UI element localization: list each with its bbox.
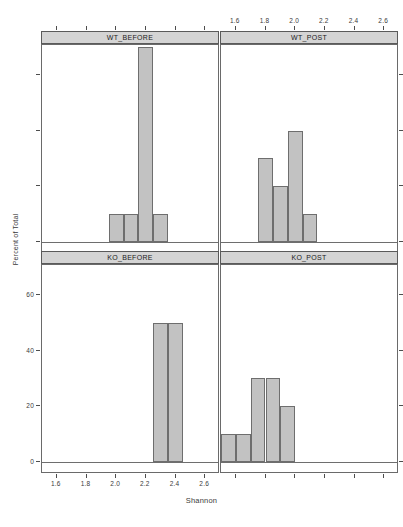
x-tick-top bbox=[204, 26, 205, 30]
y-tick-label-left: 40 bbox=[20, 347, 34, 354]
plot-area bbox=[42, 265, 218, 472]
axis-baseline bbox=[221, 462, 397, 463]
x-tick-label-bottom: 1.6 bbox=[44, 480, 68, 487]
y-tick-left bbox=[36, 350, 40, 351]
panel-ko-before bbox=[41, 264, 219, 473]
x-tick-bottom bbox=[115, 474, 116, 478]
y-tick-left-unlabeled bbox=[36, 130, 40, 131]
y-tick-label-left: 0 bbox=[20, 458, 34, 465]
histogram-bar bbox=[280, 406, 295, 462]
x-tick-top bbox=[265, 26, 266, 30]
x-tick-label-top: 2.0 bbox=[282, 17, 306, 24]
y-tick-right-unlabeled bbox=[399, 461, 403, 462]
x-tick-top bbox=[175, 26, 176, 30]
histogram-bar bbox=[303, 214, 318, 242]
panel-strip-ko-post: KO_POST bbox=[220, 251, 398, 264]
y-tick-right bbox=[399, 241, 403, 242]
plot-area bbox=[221, 45, 397, 252]
y-tick-right-unlabeled bbox=[399, 405, 403, 406]
y-axis-title: Percent of Total bbox=[12, 180, 19, 300]
panel-strip-ko-before: KO_BEFORE bbox=[41, 251, 219, 264]
x-tick-top bbox=[86, 26, 87, 30]
axis-baseline bbox=[221, 242, 397, 243]
y-tick-left-unlabeled bbox=[36, 185, 40, 186]
y-tick-label-left: 60 bbox=[20, 291, 34, 298]
y-tick-right bbox=[399, 130, 403, 131]
x-tick-bottom bbox=[235, 474, 236, 478]
histogram-bar bbox=[288, 131, 303, 242]
histogram-bar bbox=[109, 214, 124, 242]
panel-strip-label: KO_POST bbox=[291, 254, 326, 261]
x-tick-label-bottom: 2.4 bbox=[163, 480, 187, 487]
histogram-bar bbox=[273, 186, 288, 242]
plot-area bbox=[42, 45, 218, 252]
y-tick-left-unlabeled bbox=[36, 241, 40, 242]
x-axis-title: Shannon bbox=[0, 496, 403, 505]
x-tick-label-top: 1.8 bbox=[253, 17, 277, 24]
x-tick-label-top: 2.2 bbox=[312, 17, 336, 24]
histogram-bar bbox=[258, 158, 273, 242]
lattice-histogram-figure: Percent of Total Shannon WT_BEFOREWT_POS… bbox=[0, 0, 403, 527]
axis-baseline bbox=[42, 242, 218, 243]
panel-wt-post bbox=[220, 44, 398, 253]
x-tick-bottom bbox=[56, 474, 57, 478]
histogram-bar bbox=[153, 323, 168, 462]
y-tick-right-unlabeled bbox=[399, 294, 403, 295]
y-tick-right bbox=[399, 185, 403, 186]
y-tick-right-unlabeled bbox=[399, 350, 403, 351]
y-tick-left bbox=[36, 294, 40, 295]
y-tick-label-left: 20 bbox=[20, 402, 34, 409]
x-tick-label-top: 1.6 bbox=[223, 17, 247, 24]
x-tick-top bbox=[56, 26, 57, 30]
x-tick-bottom bbox=[383, 474, 384, 478]
axis-baseline bbox=[42, 462, 218, 463]
histogram-bar bbox=[236, 434, 251, 462]
x-tick-bottom bbox=[204, 474, 205, 478]
x-tick-label-top: 2.4 bbox=[342, 17, 366, 24]
panel-ko-post bbox=[220, 264, 398, 473]
x-tick-label-top: 2.6 bbox=[371, 17, 395, 24]
x-tick-label-bottom: 2.2 bbox=[133, 480, 157, 487]
x-tick-top bbox=[145, 26, 146, 30]
x-tick-top bbox=[324, 26, 325, 30]
panel-strip-wt-post: WT_POST bbox=[220, 31, 398, 44]
x-tick-top bbox=[383, 26, 384, 30]
x-tick-bottom bbox=[175, 474, 176, 478]
x-tick-label-bottom: 2.0 bbox=[103, 480, 127, 487]
x-tick-bottom bbox=[265, 474, 266, 478]
y-tick-right bbox=[399, 74, 403, 75]
panel-strip-wt-before: WT_BEFORE bbox=[41, 31, 219, 44]
panel-strip-label: WT_POST bbox=[291, 34, 327, 41]
plot-area bbox=[221, 265, 397, 472]
histogram-bar bbox=[168, 323, 183, 462]
x-tick-bottom bbox=[354, 474, 355, 478]
x-tick-bottom bbox=[324, 474, 325, 478]
x-tick-label-bottom: 1.8 bbox=[74, 480, 98, 487]
histogram-bar bbox=[138, 47, 153, 242]
x-tick-top bbox=[354, 26, 355, 30]
histogram-bar bbox=[124, 214, 139, 242]
x-tick-top bbox=[235, 26, 236, 30]
x-tick-top bbox=[115, 26, 116, 30]
x-tick-bottom bbox=[145, 474, 146, 478]
panel-strip-label: WT_BEFORE bbox=[107, 34, 153, 41]
x-tick-bottom bbox=[86, 474, 87, 478]
histogram-bar bbox=[266, 378, 281, 462]
histogram-bar bbox=[251, 378, 266, 462]
y-tick-left bbox=[36, 461, 40, 462]
y-tick-left-unlabeled bbox=[36, 74, 40, 75]
panel-wt-before bbox=[41, 44, 219, 253]
x-tick-top bbox=[294, 26, 295, 30]
histogram-bar bbox=[153, 214, 168, 242]
x-tick-bottom bbox=[294, 474, 295, 478]
x-tick-label-bottom: 2.6 bbox=[192, 480, 216, 487]
histogram-bar bbox=[221, 434, 236, 462]
y-tick-left bbox=[36, 405, 40, 406]
panel-strip-label: KO_BEFORE bbox=[107, 254, 153, 261]
